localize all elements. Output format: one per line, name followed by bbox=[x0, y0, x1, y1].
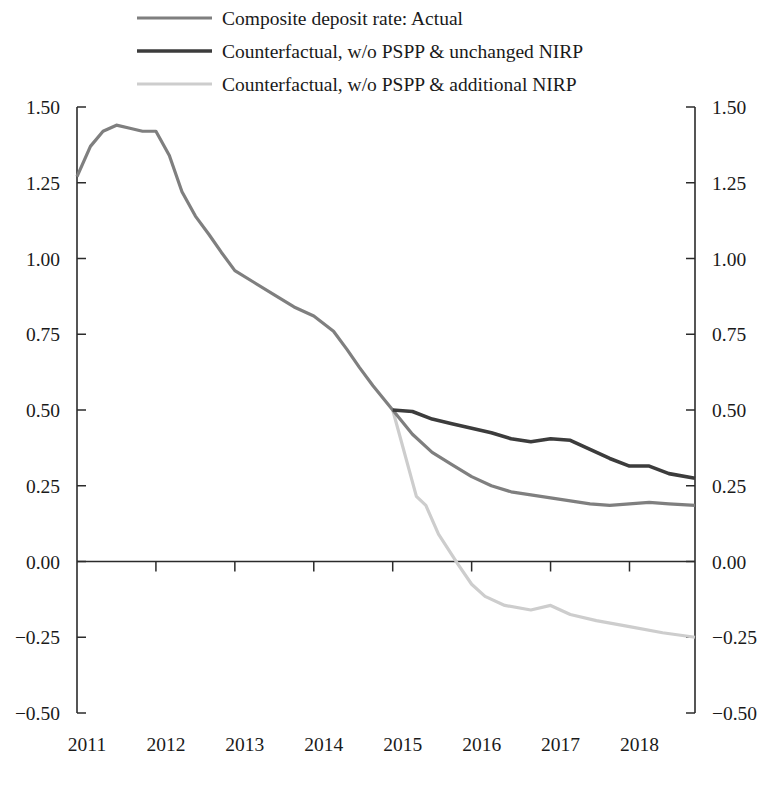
x-axis-tick-label: 2015 bbox=[383, 734, 422, 755]
x-axis-tick-label: 2012 bbox=[146, 734, 185, 755]
y-axis-tick-label: −0.25 bbox=[15, 627, 60, 648]
y-axis-tick-label: 1.50 bbox=[26, 97, 60, 118]
legend-label: Counterfactual, w/o PSPP & additional NI… bbox=[222, 74, 577, 95]
chart-figure: Composite deposit rate: ActualCounterfac… bbox=[0, 0, 778, 786]
legend-label: Counterfactual, w/o PSPP & unchanged NIR… bbox=[222, 41, 583, 62]
y-axis-tick-label: 1.25 bbox=[26, 173, 60, 194]
y-axis-tick-label: 0.50 bbox=[26, 400, 60, 421]
y-axis-tick-label: −0.50 bbox=[712, 703, 757, 724]
y-axis-tick-label: 1.00 bbox=[712, 249, 746, 270]
x-axis-tick-label: 2016 bbox=[462, 734, 501, 755]
legend-label: Composite deposit rate: Actual bbox=[222, 8, 464, 29]
x-axis-tick-label: 2017 bbox=[541, 734, 580, 755]
chart-background bbox=[0, 0, 778, 786]
y-axis-tick-label: 0.00 bbox=[26, 552, 60, 573]
y-axis-tick-label: −0.50 bbox=[15, 703, 60, 724]
y-axis-tick-label: 1.25 bbox=[712, 173, 746, 194]
y-axis-tick-label: 0.25 bbox=[26, 476, 60, 497]
y-axis-tick-label: 1.50 bbox=[712, 97, 746, 118]
y-axis-tick-label: −0.25 bbox=[712, 627, 757, 648]
x-axis-tick-label: 2011 bbox=[68, 734, 106, 755]
x-axis-tick-label: 2018 bbox=[620, 734, 659, 755]
y-axis-tick-label: 0.75 bbox=[712, 324, 746, 345]
y-axis-tick-label: 1.00 bbox=[26, 249, 60, 270]
y-axis-tick-label: 0.00 bbox=[712, 552, 746, 573]
y-axis-tick-label: 0.25 bbox=[712, 476, 746, 497]
y-axis-tick-label: 0.75 bbox=[26, 324, 60, 345]
x-axis-tick-label: 2014 bbox=[304, 734, 343, 755]
x-axis-tick-label: 2013 bbox=[225, 734, 264, 755]
y-axis-tick-label: 0.50 bbox=[712, 400, 746, 421]
